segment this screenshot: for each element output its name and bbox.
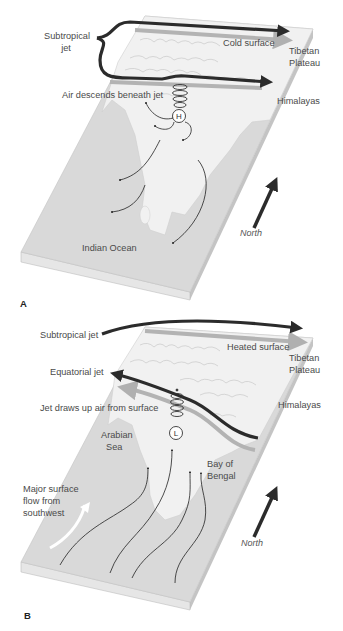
subtropical-jet-label-a-2: jet: [60, 43, 71, 53]
north-arrow-a: [254, 182, 275, 228]
panel-letter-b: B: [24, 610, 31, 621]
himalayas-label-a: Himalayas: [277, 96, 320, 106]
tibetan-plateau-label-a-2: Plateau: [289, 58, 320, 68]
panel-b: L North Subtropical jet Heated surface T…: [21, 321, 321, 621]
indian-ocean-label: Indian Ocean: [82, 243, 137, 253]
north-label-b: North: [241, 538, 263, 548]
pressure-label-a: H: [176, 112, 182, 121]
sri-lanka: [140, 206, 150, 224]
surface-flow-label-2: flow from: [23, 496, 61, 506]
arabian-sea-label-1: Arabian: [101, 430, 133, 440]
north-label-a: North: [240, 228, 262, 238]
equatorial-jet-label: Equatorial jet: [50, 367, 104, 377]
tibetan-plateau-label-a-1: Tibetan: [289, 46, 319, 56]
air-descends-label: Air descends beneath jet: [62, 90, 164, 100]
monsoon-diagram: H North Subtropical jet Cold surface Tib…: [0, 0, 343, 631]
surface-flow-label-3: southwest: [23, 508, 65, 518]
jet-draws-up-label: Jet draws up air from surface: [40, 403, 158, 413]
subtropical-jet-label-a-1: Subtropical: [44, 31, 90, 41]
pressure-label-b: L: [174, 429, 179, 438]
tibetan-plateau-label-b-1: Tibetan: [289, 353, 319, 363]
bay-of-bengal-label-1: Bay of: [207, 459, 233, 469]
north-arrow-b: [254, 491, 275, 537]
subtropical-jet-label-b: Subtropical jet: [40, 330, 99, 340]
cold-surface-label: Cold surface: [223, 38, 275, 48]
surface-flow-label-1: Major surface: [23, 484, 79, 494]
panel-letter-a: A: [20, 298, 27, 309]
tibetan-plateau-label-b-2: Plateau: [289, 365, 320, 375]
panel-a: H North Subtropical jet Cold surface Tib…: [20, 16, 320, 309]
arabian-sea-label-2: Sea: [106, 442, 123, 452]
heated-surface-label: Heated surface: [227, 342, 289, 352]
bay-of-bengal-label-2: Bengal: [207, 471, 236, 481]
himalayas-label-b: Himalayas: [278, 400, 321, 410]
